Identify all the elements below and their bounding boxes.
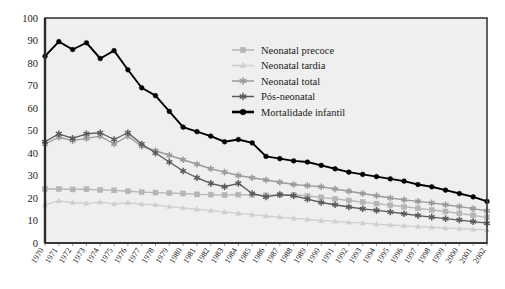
x-tick-label: 2002 [471, 246, 487, 265]
y-tick-label: 40 [28, 148, 39, 159]
x-tick-label: 1992 [333, 246, 349, 265]
x-tick-label: 1988 [278, 246, 294, 265]
x-tick-label: 1980 [168, 246, 184, 265]
x-tick-label: 1970 [29, 246, 45, 265]
y-tick-label: 60 [28, 103, 39, 114]
x-axis-tick-labels: 1970197119721973197419751976197719781979… [29, 246, 487, 265]
x-tick-label: 1976 [112, 246, 128, 265]
y-axis-tick-labels: 0102030405060708090100 [22, 13, 38, 249]
x-tick-label: 1974 [85, 246, 101, 265]
x-tick-label: 2001 [458, 246, 474, 265]
infant-mortality-line-chart: 0102030405060708090100 19701971197219731… [0, 0, 505, 289]
x-tick-label: 1978 [140, 246, 156, 265]
x-tick-label: 1981 [181, 246, 197, 265]
legend-item-label: Pós-neonatal [261, 91, 315, 102]
x-tick-label: 1984 [223, 246, 239, 265]
x-tick-label: 1990 [306, 246, 322, 265]
x-tick-label: 1997 [402, 246, 418, 265]
x-tick-label: 1979 [154, 246, 170, 265]
x-tick-label: 1993 [347, 246, 363, 265]
legend-item-label: Mortalidade infantil [261, 107, 345, 118]
legend-item-label: Neonatal tardia [261, 60, 326, 71]
x-tick-label: 1977 [126, 246, 142, 265]
y-tick-label: 100 [22, 13, 38, 24]
x-tick-label: 1971 [43, 246, 59, 265]
x-tick-label: 1973 [71, 246, 87, 265]
x-tick-label: 1995 [375, 246, 391, 265]
y-tick-label: 20 [28, 193, 39, 204]
x-tick-label: 1991 [319, 246, 335, 265]
x-tick-label: 1983 [209, 246, 225, 265]
x-tick-label: 1989 [292, 246, 308, 265]
x-tick-label: 1996 [389, 246, 405, 265]
y-tick-label: 30 [28, 170, 39, 181]
x-tick-label: 1975 [98, 246, 114, 265]
x-tick-label: 2000 [444, 246, 460, 265]
x-tick-label: 1982 [195, 246, 211, 265]
y-tick-label: 70 [28, 80, 39, 91]
y-tick-label: 90 [28, 35, 39, 46]
chart-container: 0102030405060708090100 19701971197219731… [0, 0, 505, 289]
x-tick-label: 1985 [237, 246, 253, 265]
y-tick-label: 80 [28, 58, 39, 69]
y-tick-label: 50 [28, 125, 39, 136]
x-tick-label: 1986 [250, 246, 266, 265]
y-tick-label: 10 [28, 215, 39, 226]
x-tick-label: 1972 [57, 246, 73, 265]
legend-item-label: Neonatal precoce [261, 45, 335, 56]
legend-item-label: Neonatal total [261, 76, 320, 87]
x-tick-label: 1998 [416, 246, 432, 265]
x-tick-label: 1999 [430, 246, 446, 265]
x-tick-label: 1994 [361, 246, 377, 265]
x-tick-label: 1987 [264, 246, 280, 265]
